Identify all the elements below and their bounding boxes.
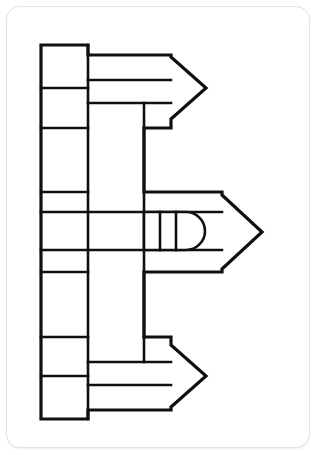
rounded-bowl-slot [144, 212, 205, 250]
block-letter-b-arrows [0, 0, 318, 455]
screenshot-root: Letter B Block Arrow Line Art [0, 0, 318, 455]
